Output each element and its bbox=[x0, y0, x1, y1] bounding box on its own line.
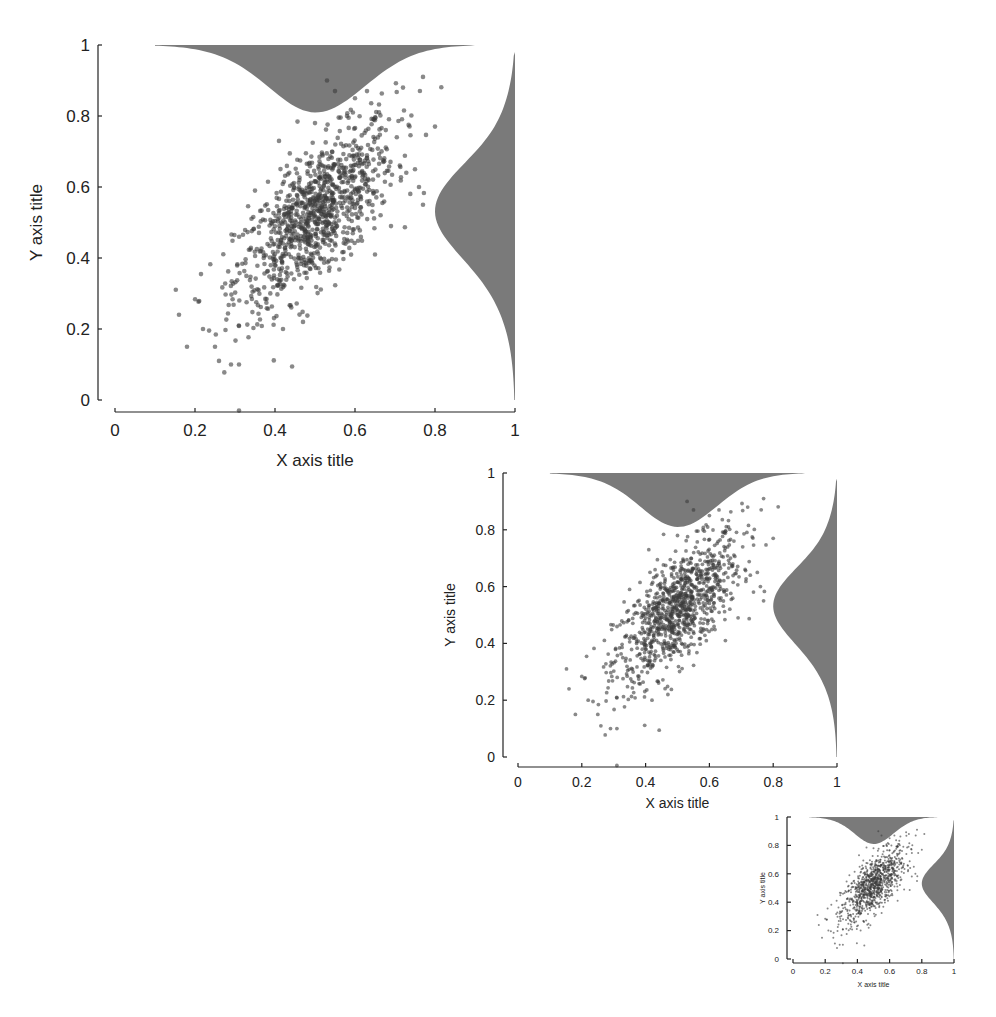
x-axis bbox=[518, 763, 837, 767]
scatter-points bbox=[565, 497, 781, 768]
x-tick-label: 0.8 bbox=[916, 967, 928, 976]
x-tick-label: 1 bbox=[510, 421, 519, 440]
y-tick-label: 0.4 bbox=[66, 249, 90, 268]
y-tick-label: 0 bbox=[775, 955, 780, 964]
scatter-chart-1: 00.20.40.60.8100.20.40.60.81X axis title… bbox=[27, 36, 520, 470]
x-tick-label: 0 bbox=[791, 967, 796, 976]
x-tick-label: 0.6 bbox=[700, 774, 720, 790]
x-tick-label: 0 bbox=[110, 421, 119, 440]
y-axis bbox=[503, 473, 507, 757]
x-axis-title: X axis title bbox=[646, 795, 710, 811]
x-tick-label: 0 bbox=[514, 774, 522, 790]
scatter-points bbox=[174, 75, 444, 413]
y-tick-label: 0.6 bbox=[768, 870, 780, 879]
y-tick-label: 0.2 bbox=[66, 320, 90, 339]
x-axis-title: X axis title bbox=[276, 451, 353, 470]
y-tick-label: 0.4 bbox=[476, 635, 496, 651]
y-tick-label: 0.2 bbox=[768, 926, 780, 935]
y-marginal-density bbox=[435, 52, 515, 400]
x-tick-label: 0.4 bbox=[263, 421, 287, 440]
y-axis-title: Y axis title bbox=[27, 184, 46, 261]
figure-svg: 00.20.40.60.8100.20.40.60.81X axis title… bbox=[0, 0, 996, 1017]
y-tick-label: 0.8 bbox=[768, 841, 780, 850]
y-axis bbox=[98, 45, 102, 400]
y-tick-label: 0.4 bbox=[768, 898, 780, 907]
y-marginal-density bbox=[773, 479, 837, 757]
y-axis bbox=[787, 817, 791, 959]
y-tick-label: 0.6 bbox=[476, 579, 496, 595]
x-tick-label: 0.2 bbox=[572, 774, 592, 790]
scatter-chart-3: 00.20.40.60.8100.20.40.60.81X axis title… bbox=[759, 813, 957, 988]
y-tick-label: 0.8 bbox=[66, 107, 90, 126]
x-tick-label: 1 bbox=[952, 967, 957, 976]
x-marginal-density bbox=[155, 45, 475, 112]
y-axis-title: Y axis title bbox=[759, 872, 766, 904]
x-tick-label: 0.2 bbox=[820, 967, 832, 976]
y-tick-label: 1 bbox=[775, 813, 780, 822]
y-tick-label: 0 bbox=[487, 749, 495, 765]
scatter-chart-2: 00.20.40.60.8100.20.40.60.81X axis title… bbox=[442, 465, 841, 811]
x-marginal-density bbox=[550, 473, 805, 527]
y-tick-label: 0 bbox=[81, 391, 90, 410]
y-tick-label: 0.6 bbox=[66, 178, 90, 197]
y-tick-label: 1 bbox=[487, 465, 495, 481]
x-tick-label: 0.6 bbox=[884, 967, 896, 976]
x-tick-label: 0.6 bbox=[343, 421, 367, 440]
x-marginal-density bbox=[809, 817, 938, 844]
y-axis-title: Y axis title bbox=[442, 583, 458, 647]
x-tick-label: 1 bbox=[833, 774, 841, 790]
x-tick-label: 0.8 bbox=[763, 774, 783, 790]
x-tick-label: 0.8 bbox=[423, 421, 447, 440]
scatter-points bbox=[817, 829, 926, 965]
y-tick-label: 0.2 bbox=[476, 692, 496, 708]
y-tick-label: 0.8 bbox=[476, 522, 496, 538]
y-marginal-density bbox=[922, 820, 954, 959]
x-tick-label: 0.2 bbox=[183, 421, 207, 440]
y-tick-label: 1 bbox=[81, 36, 90, 55]
x-axis bbox=[115, 408, 515, 412]
x-axis-title: X axis title bbox=[858, 981, 890, 988]
x-tick-label: 0.4 bbox=[636, 774, 656, 790]
x-tick-label: 0.4 bbox=[852, 967, 864, 976]
x-axis bbox=[793, 959, 954, 963]
